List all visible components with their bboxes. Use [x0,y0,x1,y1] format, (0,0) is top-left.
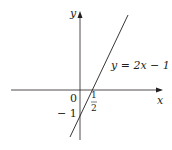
y-axis-arrow-icon [78,11,83,18]
equation-label: y = 2x − 1 [111,60,170,71]
fraction-denominator: 2 [91,104,97,113]
function-line [70,15,128,137]
y-intercept-label: − 1 [57,108,77,119]
fraction-numerator: 1 [91,91,97,100]
graph-figure: y x 0 − 1 1 2 y = 2x − 1 [0,0,172,150]
x-axis-arrow-icon [156,88,163,93]
graph-canvas [0,0,172,150]
x-axis-label: x [157,95,163,106]
origin-label: 0 [70,93,77,104]
y-axis-label: y [70,8,76,19]
